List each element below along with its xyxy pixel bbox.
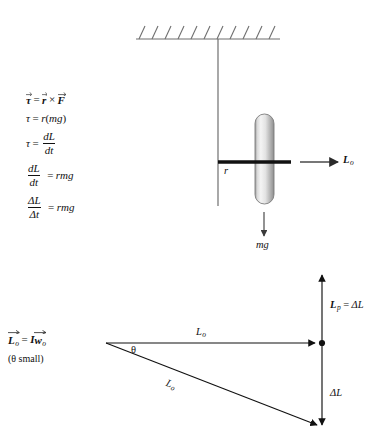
equals-sign: = [33, 94, 39, 105]
cross-product-operator: × [49, 94, 55, 105]
equals-sign: = [32, 113, 38, 124]
rmg-symbol: rmg [56, 170, 74, 181]
vector-arrow-icon [26, 92, 32, 96]
fraction-denominator: Δt [28, 207, 42, 220]
vector-arrow-icon [58, 92, 66, 96]
vector-triangle-svg [0, 262, 372, 442]
physics-figure-canvas: r mg Lo τ = r × [0, 0, 372, 442]
equation-block: τ = r × F τ = r ( mg ) [26, 92, 136, 227]
dl-dt-fraction: dL dt [41, 131, 57, 156]
L-symbol: L [196, 326, 202, 337]
equation-torque-rate: τ = dL dt [26, 131, 136, 156]
angular-momentum-label: Lo [343, 155, 354, 167]
rmg-symbol: rmg [57, 202, 75, 213]
mg-symbol: mg [49, 113, 62, 124]
vector-arrow-icon [42, 92, 47, 96]
weight-label: mg [256, 240, 269, 251]
vector-triangle-group [0, 262, 372, 442]
tau-symbol: τ [26, 113, 30, 124]
angular-momentum-symbol: L [343, 154, 349, 165]
radius-label: r [224, 166, 228, 177]
fraction-numerator: dL [41, 131, 57, 143]
equals-sign: = [48, 202, 54, 213]
fraction-denominator: dt [28, 175, 41, 188]
equation-dldt-rmg: dL dt = rmg [26, 163, 136, 188]
force-vector: F [58, 92, 65, 106]
equation-torque-scalar: τ = r ( mg ) [26, 113, 136, 124]
tau-vector: τ [26, 92, 31, 106]
fraction-numerator: dL [26, 163, 42, 175]
L-subscript: o [202, 330, 206, 339]
tau-symbol: τ [26, 138, 30, 149]
dl-dt-fraction: dL dt [26, 163, 42, 188]
precession-momentum-label: Lp=ΔL [330, 300, 364, 312]
fraction-denominator: dt [43, 143, 56, 156]
angle-label: θ [131, 345, 136, 356]
flywheel [255, 114, 274, 204]
r-vector: r [42, 92, 46, 106]
paren-close: ) [63, 113, 67, 124]
L-subscript: p [337, 303, 341, 312]
delta-momentum-label: ΔL [330, 388, 342, 399]
L-symbol: L [330, 299, 336, 310]
angular-momentum-subscript: o [350, 158, 354, 167]
equals-sign: = [32, 138, 38, 149]
fraction-numerator: ΔL [26, 195, 43, 207]
tilted-momentum-vector [106, 343, 317, 425]
equals-sign: = [47, 170, 53, 181]
ceiling-hatching [139, 26, 275, 39]
equation-deltal-rmg: ΔL Δt = rmg [26, 195, 136, 220]
delta-L-symbol: ΔL [352, 299, 364, 310]
delta-l-delta-t-fraction: ΔL Δt [26, 195, 43, 220]
horizontal-vector-label: Lo [196, 327, 206, 339]
equals-sign: = [343, 299, 349, 310]
equation-torque-vector: τ = r × F [26, 92, 136, 106]
vertex-dot [319, 340, 325, 346]
